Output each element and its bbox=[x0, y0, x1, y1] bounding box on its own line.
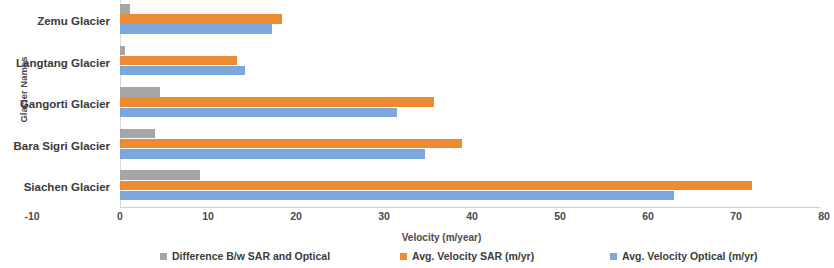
legend-label: Avg. Velocity SAR (m/yr) bbox=[412, 250, 534, 262]
bar-orange bbox=[120, 97, 434, 107]
x-tick-label: 20 bbox=[271, 210, 321, 222]
bar-group-row: Langtang Glacier bbox=[0, 42, 827, 84]
legend-label: Avg. Velocity Optical (m/yr) bbox=[622, 250, 758, 262]
bar-orange bbox=[120, 14, 282, 24]
orange-swatch-icon bbox=[400, 253, 407, 260]
x-axis-title-text: Velocity (m/year) bbox=[402, 232, 481, 243]
gray-swatch-icon bbox=[160, 253, 167, 260]
bar-orange bbox=[120, 139, 462, 149]
bar-gray bbox=[120, 170, 200, 180]
chart-legend: Difference B/w SAR and OpticalAvg. Veloc… bbox=[0, 250, 827, 266]
bars bbox=[0, 125, 827, 167]
plot-area: Zemu GlacierLangtang GlacierGangorti Gla… bbox=[0, 0, 827, 208]
bars bbox=[0, 42, 827, 84]
bar-blue bbox=[120, 66, 245, 76]
bars bbox=[0, 166, 827, 208]
x-tick-label: 70 bbox=[711, 210, 761, 222]
bar-gray bbox=[120, 4, 130, 14]
x-axis-title: Velocity (m/year) bbox=[0, 232, 827, 243]
bar-gray bbox=[120, 87, 160, 97]
x-tick-label: 60 bbox=[623, 210, 673, 222]
x-tick-label: 40 bbox=[447, 210, 497, 222]
legend-item[interactable]: Avg. Velocity Optical (m/yr) bbox=[610, 250, 758, 262]
bar-orange bbox=[120, 56, 237, 66]
bar-blue bbox=[120, 108, 397, 118]
blue-swatch-icon bbox=[610, 253, 617, 260]
x-tick-label: 0 bbox=[95, 210, 145, 222]
bar-orange bbox=[120, 181, 752, 191]
legend-item[interactable]: Difference B/w SAR and Optical bbox=[160, 250, 330, 262]
x-tick-label: 10 bbox=[183, 210, 233, 222]
x-tick-label: 30 bbox=[359, 210, 409, 222]
x-tick-label: -10 bbox=[7, 210, 57, 222]
x-tick-label: 80 bbox=[799, 210, 834, 222]
bar-gray bbox=[120, 129, 155, 139]
bar-group-row: Siachen Glacier bbox=[0, 166, 827, 208]
legend-item[interactable]: Avg. Velocity SAR (m/yr) bbox=[400, 250, 534, 262]
bar-group-row: Bara Sigri Glacier bbox=[0, 125, 827, 167]
bars bbox=[0, 83, 827, 125]
bar-blue bbox=[120, 24, 272, 34]
bar-group-row: Gangorti Glacier bbox=[0, 83, 827, 125]
legend-label: Difference B/w SAR and Optical bbox=[172, 250, 330, 262]
bars bbox=[0, 0, 827, 42]
bar-blue bbox=[120, 191, 674, 201]
x-tick-label: 50 bbox=[535, 210, 585, 222]
x-axis-tick-labels: -1001020304050607080 bbox=[0, 210, 827, 230]
bar-blue bbox=[120, 149, 425, 159]
bar-gray bbox=[120, 46, 125, 56]
bar-group-row: Zemu Glacier bbox=[0, 0, 827, 42]
